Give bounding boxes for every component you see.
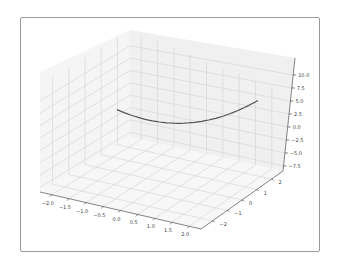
tick-label: −1.5 bbox=[59, 204, 71, 210]
tick-label: −2.0 bbox=[42, 200, 54, 206]
tick-label: −1 bbox=[234, 210, 241, 216]
tick-label: 10.0 bbox=[298, 72, 309, 78]
tick-label: 0.0 bbox=[113, 216, 121, 222]
3d-plot: −2.0−1.5−1.0−0.50.00.51.01.52.0−2−101210… bbox=[0, 0, 338, 271]
tick-label: 5.0 bbox=[295, 98, 303, 104]
tick-label: 0 bbox=[249, 200, 252, 206]
tick-label: 7.5 bbox=[297, 85, 305, 91]
tick-label: 2.0 bbox=[181, 231, 189, 237]
tick-label: 2.5 bbox=[294, 111, 302, 117]
tick-label: −2 bbox=[219, 221, 226, 227]
tick-label: −2.5 bbox=[291, 137, 303, 143]
tick-label: 1.0 bbox=[147, 223, 155, 229]
tick-label: 0.0 bbox=[293, 124, 301, 130]
tick-label: −0.5 bbox=[93, 212, 105, 218]
tick-label: 2 bbox=[279, 179, 282, 185]
tick-label: −7.5 bbox=[289, 163, 301, 169]
tick-label: −5.0 bbox=[290, 150, 302, 156]
tick-label: 1 bbox=[264, 190, 267, 196]
tick-label: 1.5 bbox=[164, 227, 172, 233]
tick-label: −1.0 bbox=[76, 208, 88, 214]
tick-label: 0.5 bbox=[130, 219, 138, 225]
